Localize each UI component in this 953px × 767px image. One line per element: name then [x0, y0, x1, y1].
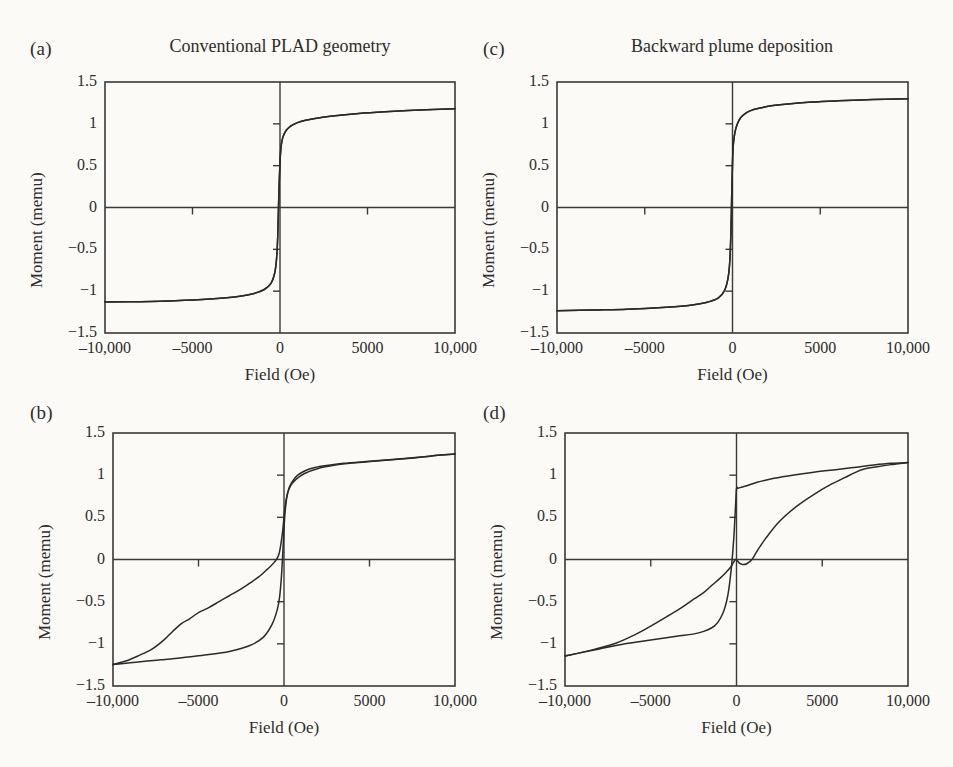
y-tick-label-b-4: −0.5 [51, 592, 105, 610]
x-tick-label-a-2: 0 [230, 339, 330, 357]
x-tick-label-d-4: 10,000 [858, 692, 953, 710]
x-tick-label-b-3: 5000 [320, 692, 420, 710]
y-axis-label-c: Moment (memu) [479, 172, 499, 288]
x-tick-label-b-0: –10,000 [63, 692, 163, 710]
x-axis-label-a: Field (Oe) [130, 365, 430, 385]
x-axis-label-c: Field (Oe) [583, 365, 883, 385]
hysteresis-curve-c-descending-branch [557, 99, 908, 311]
x-tick-label-c-3: 5000 [770, 339, 870, 357]
panel-label-c: (c) [483, 38, 505, 60]
plot-canvas-c [0, 0, 953, 767]
y-axis-label-b: Moment (memu) [35, 524, 55, 640]
x-axis-label-d: Field (Oe) [587, 718, 887, 738]
hysteresis-curve-d-ascending-branch [565, 463, 908, 657]
y-tick-label-a-6: −1.5 [43, 323, 97, 341]
plot-frame-c [557, 82, 908, 333]
y-tick-label-d-2: 0.5 [503, 507, 557, 525]
y-tick-label-a-5: −1 [43, 281, 97, 299]
panel-label-a: (a) [30, 38, 52, 60]
y-tick-label-d-5: −1 [503, 634, 557, 652]
y-tick-label-d-4: −0.5 [503, 592, 557, 610]
y-tick-label-a-0: 1.5 [43, 72, 97, 90]
panel-label-d: (d) [483, 402, 506, 424]
hysteresis-curve-a-descending-branch [105, 109, 455, 302]
y-tick-label-a-4: −0.5 [43, 239, 97, 257]
y-tick-label-c-2: 0.5 [495, 156, 549, 174]
plot-canvas-b [0, 0, 953, 767]
plot-canvas-a [0, 0, 953, 767]
y-tick-label-a-1: 1 [43, 114, 97, 132]
plot-panel-b: (b)1.510.50−0.5−1−1.5–10,000–50000500010… [0, 0, 953, 767]
hysteresis-curve-c-ascending-branch [557, 99, 908, 311]
y-tick-label-b-5: −1 [51, 634, 105, 652]
y-tick-label-d-1: 1 [503, 465, 557, 483]
hysteresis-curve-d-descending-branch [565, 463, 908, 657]
y-tick-label-c-0: 1.5 [495, 72, 549, 90]
plot-panel-a: (a)Conventional PLAD geometry1.510.50−0.… [0, 0, 953, 767]
y-tick-label-c-1: 1 [495, 114, 549, 132]
x-tick-label-c-4: 10,000 [858, 339, 953, 357]
x-tick-label-c-0: –10,000 [507, 339, 607, 357]
x-tick-label-d-1: –5000 [601, 692, 701, 710]
plot-frame-b [113, 433, 455, 686]
x-tick-label-a-1: –5000 [143, 339, 243, 357]
y-tick-label-a-3: 0 [43, 198, 97, 216]
y-tick-label-b-2: 0.5 [51, 507, 105, 525]
plot-panel-d: (d)1.510.50−0.5−1−1.5–10,000–50000500010… [0, 0, 953, 767]
hysteresis-curve-a-ascending-branch [105, 109, 455, 302]
y-tick-label-d-6: −1.5 [503, 676, 557, 694]
panel-title-a: Conventional PLAD geometry [80, 36, 480, 57]
panel-title-c: Backward plume deposition [532, 36, 932, 57]
x-tick-label-b-1: –5000 [149, 692, 249, 710]
plot-panel-c: (c)Backward plume deposition1.510.50−0.5… [0, 0, 953, 767]
y-tick-label-b-1: 1 [51, 465, 105, 483]
y-tick-label-b-0: 1.5 [51, 423, 105, 441]
x-axis-label-b: Field (Oe) [134, 718, 434, 738]
y-tick-label-b-6: −1.5 [51, 676, 105, 694]
hysteresis-curve-b-ascending-branch [113, 454, 455, 664]
x-tick-label-a-3: 5000 [318, 339, 418, 357]
hysteresis-figure: (a)Conventional PLAD geometry1.510.50−0.… [0, 0, 953, 767]
plot-canvas-d [0, 0, 953, 767]
y-tick-label-c-6: −1.5 [495, 323, 549, 341]
x-tick-label-d-0: –10,000 [515, 692, 615, 710]
plot-frame-d [565, 433, 908, 686]
x-tick-label-c-1: –5000 [595, 339, 695, 357]
y-tick-label-d-3: 0 [503, 550, 557, 568]
y-axis-label-a: Moment (memu) [27, 172, 47, 288]
x-tick-label-b-4: 10,000 [405, 692, 505, 710]
x-tick-label-a-0: –10,000 [55, 339, 155, 357]
y-tick-label-c-5: −1 [495, 281, 549, 299]
x-tick-label-b-2: 0 [234, 692, 334, 710]
y-axis-label-d: Moment (memu) [487, 524, 507, 640]
y-tick-label-c-4: −0.5 [495, 239, 549, 257]
y-tick-label-a-2: 0.5 [43, 156, 97, 174]
hysteresis-curve-b-descending-branch [113, 454, 455, 664]
x-tick-label-d-2: 0 [687, 692, 787, 710]
y-tick-label-d-0: 1.5 [503, 423, 557, 441]
plot-frame-a [105, 82, 455, 333]
x-tick-label-c-2: 0 [683, 339, 783, 357]
x-tick-label-a-4: 10,000 [405, 339, 505, 357]
y-tick-label-b-3: 0 [51, 550, 105, 568]
y-tick-label-c-3: 0 [495, 198, 549, 216]
panel-label-b: (b) [30, 402, 53, 424]
x-tick-label-d-3: 5000 [772, 692, 872, 710]
